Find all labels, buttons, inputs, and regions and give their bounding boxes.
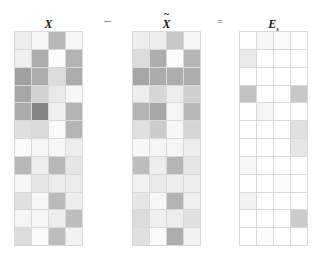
matrix-cell	[150, 50, 167, 68]
matrix-cell	[167, 103, 184, 121]
matrix-cell	[150, 86, 167, 104]
matrix-cell	[291, 103, 308, 121]
matrix-cell	[32, 50, 49, 68]
matrix-cell	[66, 121, 83, 139]
matrix-cell	[167, 193, 184, 211]
matrix-cell	[257, 68, 274, 86]
matrix-cell	[66, 175, 83, 193]
matrix-block-x-tilde: X~	[132, 15, 201, 246]
matrix-label-e: Es	[268, 15, 279, 31]
matrix-grid-e	[239, 31, 308, 246]
matrix-cell	[291, 193, 308, 211]
matrix-cell	[133, 157, 150, 175]
matrix-cell	[32, 32, 49, 50]
matrix-cell	[240, 228, 257, 246]
matrix-cell	[291, 32, 308, 50]
matrix-label-base: E	[268, 18, 276, 31]
matrix-cell	[184, 50, 201, 68]
matrix-cell	[15, 86, 32, 104]
matrix-cell	[49, 32, 66, 50]
matrix-cell	[291, 228, 308, 246]
matrix-cell	[257, 103, 274, 121]
matrix-cell	[184, 32, 201, 50]
matrix-cell	[66, 157, 83, 175]
matrix-cell	[240, 50, 257, 68]
matrix-cell	[32, 175, 49, 193]
matrix-cell	[15, 157, 32, 175]
matrix-cell	[32, 157, 49, 175]
matrix-cell	[167, 210, 184, 228]
matrix-cell	[150, 139, 167, 157]
matrix-cell	[291, 50, 308, 68]
matrix-cell	[66, 210, 83, 228]
matrix-cell	[133, 210, 150, 228]
matrix-label-base: X	[44, 18, 52, 31]
matrix-cell	[167, 86, 184, 104]
matrix-cell	[167, 139, 184, 157]
matrix-cell	[15, 103, 32, 121]
matrix-label-x-tilde: X~	[162, 15, 170, 31]
matrix-cell	[32, 228, 49, 246]
matrix-cell	[240, 139, 257, 157]
tilde-accent-icon: ~	[162, 11, 170, 17]
matrix-cell	[133, 121, 150, 139]
matrix-cell	[240, 121, 257, 139]
matrix-cell	[66, 86, 83, 104]
matrix-cell	[257, 157, 274, 175]
matrix-cell	[184, 103, 201, 121]
matrix-cell	[15, 121, 32, 139]
matrix-label-base: X~	[162, 18, 170, 31]
matrix-cell	[15, 68, 32, 86]
matrix-cell	[133, 193, 150, 211]
matrix-grid-x	[14, 31, 83, 246]
matrix-cell	[167, 68, 184, 86]
matrix-cell	[274, 139, 291, 157]
matrix-cell	[133, 228, 150, 246]
matrix-cell	[184, 228, 201, 246]
matrix-cell	[240, 103, 257, 121]
matrix-cell	[184, 193, 201, 211]
matrix-cell	[291, 157, 308, 175]
matrix-cell	[291, 139, 308, 157]
matrix-cell	[133, 103, 150, 121]
matrix-cell	[257, 139, 274, 157]
matrix-cell	[274, 175, 291, 193]
matrix-cell	[133, 50, 150, 68]
matrix-cell	[257, 193, 274, 211]
matrix-cell	[184, 68, 201, 86]
matrix-cell	[274, 228, 291, 246]
matrix-cell	[291, 68, 308, 86]
matrix-cell	[49, 210, 66, 228]
matrix-cell	[240, 210, 257, 228]
matrix-cell	[66, 50, 83, 68]
matrix-cell	[184, 210, 201, 228]
matrix-cell	[274, 50, 291, 68]
matrix-cell	[291, 210, 308, 228]
matrix-cell	[32, 193, 49, 211]
matrix-cell	[240, 175, 257, 193]
matrix-cell	[15, 210, 32, 228]
matrix-cell	[133, 86, 150, 104]
matrix-cell	[184, 121, 201, 139]
matrix-cell	[184, 157, 201, 175]
matrix-cell	[257, 210, 274, 228]
matrix-cell	[133, 68, 150, 86]
matrix-cell	[15, 50, 32, 68]
matrix-cell	[150, 32, 167, 50]
matrix-cell	[240, 86, 257, 104]
matrix-cell	[257, 228, 274, 246]
matrix-cell	[66, 139, 83, 157]
matrix-cell	[49, 228, 66, 246]
matrix-cell	[274, 121, 291, 139]
matrix-cell	[66, 193, 83, 211]
matrix-cell	[49, 86, 66, 104]
matrix-cell	[32, 103, 49, 121]
matrix-cell	[66, 103, 83, 121]
matrix-cell	[291, 175, 308, 193]
matrix-cell	[49, 68, 66, 86]
matrix-cell	[150, 103, 167, 121]
matrix-cell	[184, 175, 201, 193]
matrix-cell	[150, 228, 167, 246]
matrix-cell	[240, 157, 257, 175]
matrix-cell	[274, 157, 291, 175]
